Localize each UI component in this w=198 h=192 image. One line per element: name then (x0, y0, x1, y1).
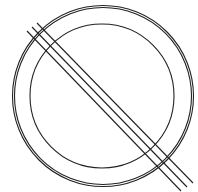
prohibition-diagram (0, 0, 198, 192)
diagonal-line-2 (32, 27, 187, 187)
diagonal-line-3 (37, 23, 193, 183)
inner-circle (30, 24, 174, 168)
outer-circle-outer-ring (13, 6, 194, 187)
outer-circle-inner-ring (15, 8, 192, 185)
